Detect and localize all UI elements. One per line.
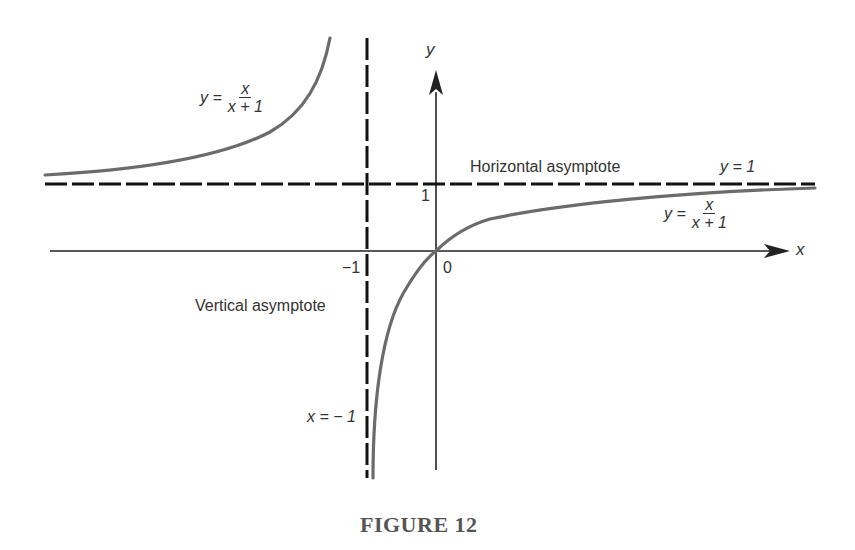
equation-lhs: y =: [200, 89, 222, 107]
y-axis-arrow-icon: [429, 70, 443, 95]
x-axis-label: x: [796, 240, 805, 260]
curve-right-branch: [373, 188, 815, 478]
y-axis-label: y: [426, 40, 435, 60]
figure-caption: FIGURE 12: [360, 512, 478, 538]
equation-denominator: x + 1: [692, 214, 727, 231]
equation-denominator: x + 1: [228, 98, 263, 115]
vertical-asymptote-label: Vertical asymptote: [195, 297, 326, 315]
curve-left-equation: y = x x + 1: [200, 80, 263, 115]
equation-numerator: x: [703, 196, 715, 214]
tick-label-y-1: 1: [421, 187, 430, 205]
horizontal-asymptote-label: Horizontal asymptote: [470, 158, 620, 176]
graph-canvas: [0, 0, 855, 550]
curve-right-equation: y = x x + 1: [664, 196, 727, 231]
vertical-asymptote-equation: x = − 1: [307, 408, 356, 426]
tick-label-x-neg1: −1: [342, 259, 360, 277]
tick-label-origin: 0: [443, 259, 452, 277]
horizontal-asymptote-equation: y = 1: [720, 158, 755, 176]
equation-lhs: y =: [664, 205, 686, 223]
equation-numerator: x: [239, 80, 251, 98]
curve-left-branch: [45, 38, 330, 175]
